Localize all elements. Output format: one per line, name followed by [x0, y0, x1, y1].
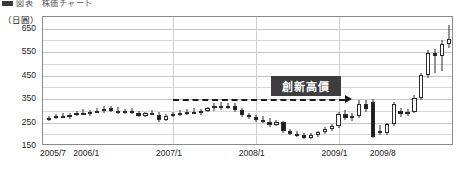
candlestick [233, 17, 237, 145]
candle-body-down [378, 131, 382, 133]
candle-body-up [350, 116, 354, 118]
candle-body-up [212, 106, 216, 108]
candlestick [192, 17, 196, 145]
candle-body-down [254, 117, 258, 119]
candle-body-down [343, 114, 347, 118]
candlestick [199, 17, 203, 145]
candle-body-down [157, 115, 161, 120]
candlestick [357, 17, 361, 145]
candle-body-up [171, 114, 175, 116]
candle-body-up [330, 126, 334, 129]
y-tick-550: 550 [10, 46, 36, 56]
caption-strip: 図表 株価チャート [0, 0, 457, 9]
candlestick [116, 17, 120, 145]
resistance-arrow-icon [345, 95, 352, 103]
candlestick [130, 17, 134, 145]
candle-body-down [295, 134, 299, 136]
candle-body-down [247, 115, 251, 117]
candlestick [74, 17, 78, 145]
candle-body-up [316, 132, 320, 134]
candle-body-up [274, 122, 278, 125]
candle-body-up [185, 112, 189, 114]
candlestick [419, 17, 423, 145]
candle-body-down [130, 111, 134, 113]
candle-body-up [102, 109, 106, 111]
caption-text: 図表 株価チャート [16, 0, 93, 8]
candlestick [109, 17, 113, 145]
candlestick [164, 17, 168, 145]
x-tick-2009-8: 2009/8 [370, 148, 396, 158]
candlestick [385, 17, 389, 145]
candle-body-up [336, 114, 340, 126]
candle-body-up [164, 116, 168, 120]
candlestick [240, 17, 244, 145]
candlestick [426, 17, 430, 145]
candle-body-down [240, 110, 244, 115]
candle-body-up [88, 112, 92, 114]
candle-body-up [309, 135, 313, 138]
candle-body-down [267, 122, 271, 125]
y-tick-650: 650 [10, 23, 36, 33]
candlestick [392, 17, 396, 145]
candlestick [433, 17, 437, 145]
candle-body-down [364, 104, 368, 110]
candle-wick [448, 25, 449, 48]
candlestick [447, 17, 451, 145]
candlestick [205, 17, 209, 145]
candle-body-up [426, 53, 430, 76]
candle-body-down [433, 53, 437, 56]
y-tick-450: 450 [10, 70, 36, 80]
candle-body-up [143, 113, 147, 115]
candle-body-up [419, 75, 423, 98]
new-high-label: 創新高價 [271, 76, 341, 96]
candle-body-up [405, 112, 409, 114]
candle-body-up [67, 115, 71, 118]
candle-body-down [192, 112, 196, 114]
candle-body-up [123, 111, 127, 113]
candlestick [54, 17, 58, 145]
candlestick [102, 17, 106, 145]
candle-body-up [412, 98, 416, 112]
candlestick [371, 17, 375, 145]
candle-body-down [116, 111, 120, 113]
candlestick [67, 17, 71, 145]
candle-body-up [392, 104, 396, 124]
candlestick [81, 17, 85, 145]
candlestick [95, 17, 99, 145]
candle-body-down [109, 108, 113, 111]
candlestick [398, 17, 402, 145]
candle-body-down [288, 131, 292, 134]
candlestick [171, 17, 175, 145]
candle-body-up [447, 39, 451, 44]
candle-body-down [302, 135, 306, 137]
x-tick-2009-1: 2009/1 [322, 148, 348, 158]
candlestick [143, 17, 147, 145]
candlestick [350, 17, 354, 145]
candlestick [123, 17, 127, 145]
candle-body-down [150, 113, 154, 115]
x-tick-2005-7: 2005/7 [40, 148, 66, 158]
candle-body-up [205, 108, 209, 111]
candlestick [405, 17, 409, 145]
candle-body-up [95, 111, 99, 113]
candle-body-down [371, 102, 375, 137]
candle-body-up [226, 106, 230, 108]
candlestick [47, 17, 51, 145]
candle-body-up [385, 124, 389, 132]
chart-root: 図表 株価チャート （日圓） 650550450350250150 創新高價 2… [0, 0, 457, 170]
candle-body-up [199, 111, 203, 113]
candlestick [178, 17, 182, 145]
candlestick [261, 17, 265, 145]
candlestick [88, 17, 92, 145]
candlestick [61, 17, 65, 145]
candlestick [364, 17, 368, 145]
candle-body-up [323, 129, 327, 132]
candlestick [247, 17, 251, 145]
candlestick [343, 17, 347, 145]
caption-marker-icon [2, 1, 13, 6]
resistance-line [173, 99, 345, 101]
candlestick [150, 17, 154, 145]
candlestick [219, 17, 223, 145]
candlestick [136, 17, 140, 145]
candle-body-up [47, 118, 51, 120]
